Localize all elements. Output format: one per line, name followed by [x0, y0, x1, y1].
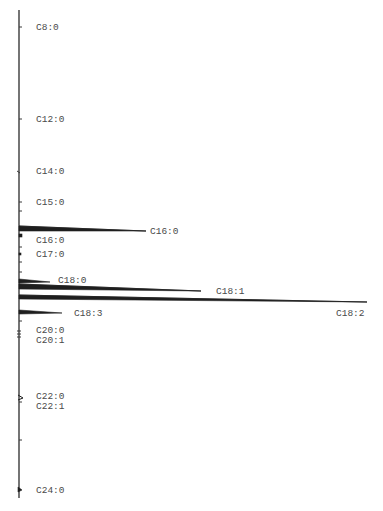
- peak-c16-0-minor: [19, 234, 22, 237]
- label-c12-0: C12:0: [36, 114, 65, 125]
- label-c20-1: C20:1: [36, 335, 65, 346]
- label-c22-1: C22:1: [36, 401, 65, 412]
- label-c16-0-peak: C16:0: [150, 226, 179, 237]
- peak-c17-0: [19, 253, 21, 255]
- label-c18-1: C18:1: [216, 286, 245, 297]
- peak-c18-0: [19, 279, 50, 283]
- label-c17-0: C17:0: [36, 249, 65, 260]
- chromatogram-chart: C8:0 C12:0 C14:0 C15:0 C16:0 C16:0 C17:0…: [0, 0, 383, 511]
- peak-c24-0: [18, 487, 22, 492]
- peaks: [17, 226, 367, 492]
- label-c16-0: C16:0: [36, 235, 65, 246]
- label-c8-0: C8:0: [36, 22, 59, 33]
- label-c14-0: C14:0: [36, 166, 65, 177]
- label-c18-3: C18:3: [74, 308, 103, 319]
- label-c18-2: C18:2: [336, 308, 365, 319]
- peak-labels: C8:0 C12:0 C14:0 C15:0 C16:0 C16:0 C17:0…: [36, 22, 365, 496]
- label-c15-0: C15:0: [36, 197, 65, 208]
- label-c24-0: C24:0: [36, 485, 65, 496]
- peak-c18-3: [19, 310, 62, 314]
- label-c18-0: C18:0: [58, 275, 87, 286]
